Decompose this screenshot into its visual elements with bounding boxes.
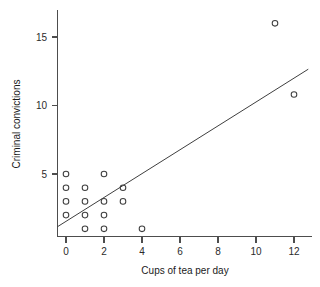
x-axis: 024681012 xyxy=(58,237,313,258)
data-point xyxy=(82,212,88,218)
x-tick-label: 6 xyxy=(177,246,183,257)
x-tick-group: 024681012 xyxy=(63,237,300,258)
plot-canvas: 51015 024681012 Cups of tea per day Crim… xyxy=(0,0,320,287)
data-point-group xyxy=(63,21,297,232)
regression-line xyxy=(57,69,308,227)
y-tick-label: 10 xyxy=(36,100,48,111)
scatter-plot-figure: 51015 024681012 Cups of tea per day Crim… xyxy=(0,0,320,287)
data-point xyxy=(101,212,107,218)
data-point xyxy=(63,185,69,191)
data-point xyxy=(272,21,278,27)
data-point xyxy=(63,199,69,205)
x-tick-label: 12 xyxy=(288,246,300,257)
y-axis-title: Criminal convictions xyxy=(11,80,22,169)
x-tick-label: 10 xyxy=(250,246,262,257)
data-point xyxy=(101,199,107,205)
data-point xyxy=(101,171,107,177)
data-point xyxy=(82,199,88,205)
x-tick-label: 0 xyxy=(63,246,69,257)
y-tick-label: 15 xyxy=(36,32,48,43)
data-point xyxy=(101,226,107,232)
x-axis-title: Cups of tea per day xyxy=(141,265,228,276)
y-tick-label: 5 xyxy=(41,169,47,180)
regression-line-path xyxy=(57,69,308,227)
x-tick-label: 8 xyxy=(215,246,221,257)
data-point xyxy=(82,226,88,232)
data-point xyxy=(63,212,69,218)
data-point xyxy=(63,171,69,177)
data-point xyxy=(139,226,145,232)
x-tick-label: 2 xyxy=(101,246,107,257)
data-point xyxy=(120,199,126,205)
data-point xyxy=(82,185,88,191)
x-tick-label: 4 xyxy=(139,246,145,257)
data-point xyxy=(291,92,297,98)
y-tick-group: 51015 xyxy=(36,32,58,180)
y-axis: 51015 xyxy=(36,10,58,237)
